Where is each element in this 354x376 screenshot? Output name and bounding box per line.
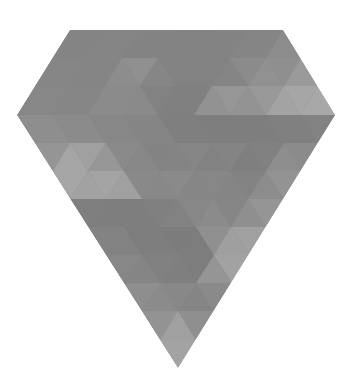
gem-facets [17,30,336,368]
facet [160,340,196,368]
image-canvas [0,0,354,376]
diamond-gem-icon [0,0,354,376]
